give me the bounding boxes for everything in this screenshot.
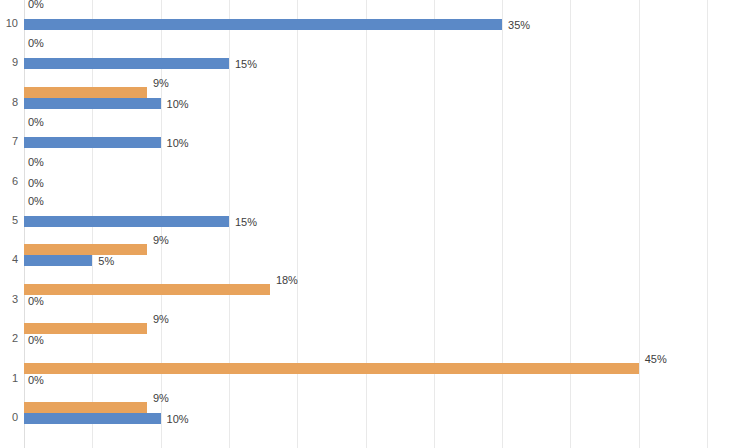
bar-A-10[interactable] [24,19,502,30]
bar-A-4[interactable] [24,255,92,266]
bar-value-label: 9% [153,392,169,405]
category-axis-label: 1 [0,373,18,384]
bar-value-label: 0% [28,374,44,387]
bar-chart: 100%35%90%15%89%10%70%10%60%0%50%15%49%5… [0,0,736,448]
bar-A-7[interactable] [24,137,161,148]
category-axis-label: 10 [0,18,18,29]
bar-O-2[interactable] [24,323,147,334]
chart-row: 90%15% [0,47,736,87]
chart-row: 89%10% [0,87,736,127]
bar-value-label: 15% [235,216,257,229]
bar-A-0[interactable] [24,413,161,424]
bar-value-label: 0% [28,195,44,208]
chart-row: 70%10% [0,126,736,166]
bar-O-3[interactable] [24,284,270,295]
bar-value-label: 18% [276,274,298,287]
category-axis-label: 0 [0,412,18,423]
category-axis-label: 8 [0,97,18,108]
bar-O-0[interactable] [24,402,147,413]
bar-value-label: 9% [153,313,169,326]
bar-value-label: 0% [28,334,44,347]
bar-value-label: 45% [645,353,667,366]
chart-row: 29%0% [0,323,736,363]
bar-value-label: 0% [28,37,44,50]
category-axis-label: 3 [0,294,18,305]
chart-row: 60%0% [0,166,736,206]
bar-value-label: 15% [235,58,257,71]
bar-A-8[interactable] [24,98,161,109]
bar-A-9[interactable] [24,58,229,69]
chart-row: 318%0% [0,284,736,324]
bar-value-label: 0% [28,116,44,129]
bar-value-label: 35% [508,19,530,32]
category-axis-label: 6 [0,176,18,187]
bar-value-label: 10% [167,137,189,150]
bar-value-label: 0% [28,177,44,190]
category-axis-label: 9 [0,57,18,68]
bar-O-8[interactable] [24,87,147,98]
bar-value-label: 9% [153,77,169,90]
category-axis-label: 2 [0,333,18,344]
bar-value-label: 0% [28,156,44,169]
bar-O-4[interactable] [24,244,147,255]
category-axis-label: 4 [0,254,18,265]
chart-legend: OA [717,192,736,240]
chart-row: 09%10% [0,402,736,442]
category-axis-label: 7 [0,136,18,147]
chart-row: 100%35% [0,8,736,48]
chart-row: 50%15% [0,205,736,245]
bar-value-label: 10% [167,98,189,111]
bar-value-label: 0% [28,295,44,308]
category-axis-label: 5 [0,215,18,226]
bar-value-label: 0% [28,0,44,11]
bar-A-5[interactable] [24,216,229,227]
bar-O-1[interactable] [24,363,639,374]
bar-value-label: 5% [98,255,114,268]
bar-value-label: 9% [153,234,169,247]
chart-row: 49%5% [0,244,736,284]
bar-value-label: 10% [167,413,189,426]
chart-row: 145%0% [0,363,736,403]
